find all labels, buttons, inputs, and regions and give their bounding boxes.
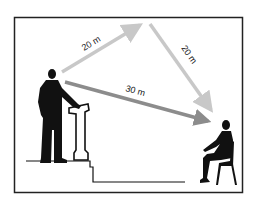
sound-path-diagram: 20 m 20 m 30 m <box>0 0 255 204</box>
